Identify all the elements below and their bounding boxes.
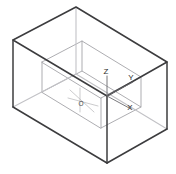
axis-label-origin: O — [78, 100, 83, 107]
outer-bottom-front-right — [107, 129, 167, 163]
axis-label-y: Y — [128, 73, 134, 82]
diagram-canvas: Z Y X O — [0, 0, 176, 174]
axis-label-z: Z — [104, 67, 109, 76]
isometric-box-diagram: Z Y X O — [0, 0, 176, 174]
outer-hidden-bottom-back-left — [13, 74, 76, 107]
outer-box-hidden-edges — [13, 7, 167, 129]
inner-top-face-edge — [42, 41, 141, 98]
axis-label-x: X — [127, 103, 133, 112]
outer-enclosure-box — [13, 7, 167, 163]
outer-bottom-front-left — [13, 107, 107, 163]
inner-bottom-face-edge — [42, 71, 141, 128]
